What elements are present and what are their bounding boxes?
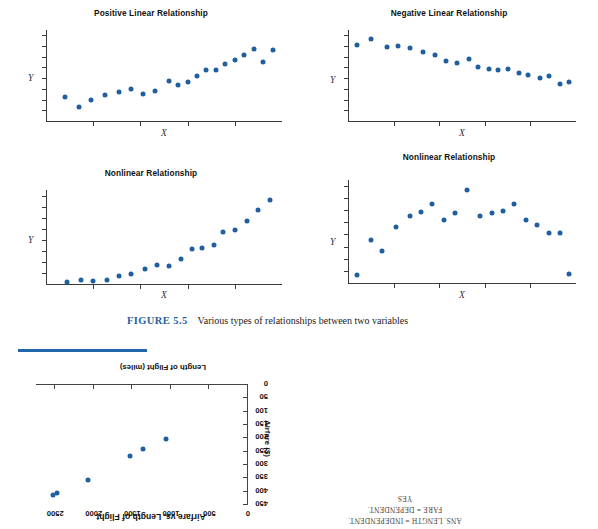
figure-caption: FIGURE 5.5Various types of relationships… (127, 315, 408, 326)
answer-line-2: FARE = DEPENDENT. (300, 504, 510, 515)
data-point (355, 42, 360, 47)
y-axis-tick (42, 89, 47, 90)
y-axis-tick (42, 110, 47, 111)
y-axis-tick (344, 89, 349, 90)
data-point (190, 246, 195, 251)
data-point (546, 231, 551, 236)
answer-line-1: ANS. LENGTH = INDEPENDENT. (300, 515, 510, 526)
data-point (105, 278, 110, 283)
y-axis-tick (344, 78, 349, 79)
answer-line-3: YES (300, 493, 510, 504)
x-axis-tick (485, 121, 486, 126)
data-point (178, 257, 183, 262)
y-axis-tick (344, 259, 349, 260)
data-point (244, 219, 249, 224)
airfare-y-tick (243, 397, 248, 398)
data-point (251, 47, 256, 52)
data-point (166, 78, 171, 83)
figure-page: Positive Linear Relationship Y X Negativ… (0, 0, 598, 529)
data-point (407, 46, 412, 51)
airfare-data-point (50, 492, 55, 497)
airfare-x-tick (131, 384, 132, 389)
airfare-x-tick (170, 384, 171, 389)
y-axis-tick (42, 262, 47, 263)
y-axis-tick (42, 67, 47, 68)
y-axis-line (348, 180, 349, 284)
y-axis-tick (344, 210, 349, 211)
airfare-x-tick (54, 384, 55, 389)
y-axis-tick (344, 57, 349, 58)
data-point (77, 105, 82, 110)
data-point (91, 279, 96, 284)
data-point (128, 86, 133, 91)
data-point (368, 37, 373, 42)
airfare-x-tick (93, 384, 94, 389)
data-point (199, 245, 204, 250)
data-point (88, 97, 93, 102)
y-axis-tick (344, 234, 349, 235)
data-point (79, 278, 84, 283)
data-point (441, 217, 446, 222)
airfare-x-tick-label: 2000 (85, 509, 102, 518)
data-point (117, 89, 122, 94)
plot-area-nonlinear-curved (348, 180, 576, 284)
x-axis-tick (235, 284, 236, 289)
plot-area-negative-linear (348, 30, 576, 122)
y-axis-label-negative-linear: Y (330, 75, 335, 85)
data-point (393, 224, 398, 229)
data-point (384, 44, 389, 49)
data-point (176, 83, 181, 88)
airfare-y-tick-label: 300 (255, 459, 268, 468)
figure-number: FIGURE 5.5 (127, 315, 188, 326)
airfare-y-tick-label: 400 (255, 486, 268, 495)
data-point (211, 243, 216, 248)
airfare-data-point (85, 478, 90, 483)
airfare-x-tick-label: 2500 (47, 509, 64, 518)
y-axis-tick (344, 46, 349, 47)
airfare-y-tick (243, 504, 248, 505)
data-point (103, 93, 108, 98)
data-point (221, 229, 226, 234)
airfare-y-tick (243, 477, 248, 478)
airfare-x-tick-label: 0 (246, 509, 250, 518)
airfare-y-tick (243, 451, 248, 452)
data-point (232, 58, 237, 63)
x-axis-tick (439, 121, 440, 126)
data-point (152, 88, 157, 93)
data-point (567, 79, 572, 84)
data-point (62, 95, 67, 100)
y-axis-tick (42, 46, 47, 47)
airfare-data-point (128, 454, 133, 459)
airfare-x-tick-label: 1500 (124, 509, 141, 518)
y-axis-tick (344, 247, 349, 248)
airfare-y-tick-label: 50 (260, 392, 268, 401)
airfare-y-tick-label: 150 (255, 419, 268, 428)
y-axis-tick (42, 229, 47, 230)
data-point (444, 59, 449, 64)
y-axis-line (348, 30, 349, 122)
x-axis-tick (394, 283, 395, 288)
y-axis-tick (42, 35, 47, 36)
y-axis-tick (344, 67, 349, 68)
data-point (512, 201, 517, 206)
y-axis-tick (344, 198, 349, 199)
scatter-panel-negative-linear: Negative Linear Relationship Y X (310, 8, 588, 143)
data-point (204, 67, 209, 72)
data-point (455, 61, 460, 66)
data-point (558, 231, 563, 236)
data-point (523, 217, 528, 222)
panel-title-nonlinear-exponential: Nonlinear Relationship (12, 168, 290, 178)
panel-title-nonlinear-curved: Nonlinear Relationship (310, 152, 588, 162)
x-axis-line (46, 121, 282, 122)
x-axis-tick (188, 121, 189, 126)
airfare-y-tick (243, 464, 248, 465)
data-point (355, 272, 360, 277)
data-point (505, 66, 510, 71)
scatter-panel-positive-linear: Positive Linear Relationship Y X (12, 8, 290, 143)
data-point (537, 75, 542, 80)
panel-title-negative-linear: Negative Linear Relationship (310, 8, 588, 18)
figure-caption-text: Various types of relationships between t… (198, 315, 409, 326)
y-axis-tick (42, 207, 47, 208)
y-axis-tick (344, 186, 349, 187)
x-axis-tick (530, 283, 531, 288)
